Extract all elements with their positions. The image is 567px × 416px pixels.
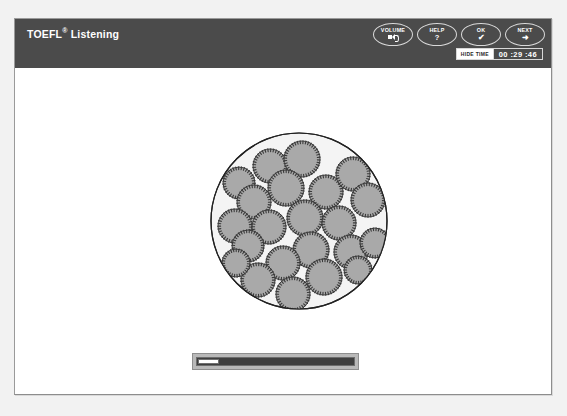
microscope-cells-illustration: [208, 130, 390, 312]
volume-button-label: VOLUME: [381, 28, 405, 33]
page-title-brand: TOEFL: [27, 28, 62, 40]
volume-button[interactable]: VOLUME: [373, 23, 413, 46]
audio-progress-bar[interactable]: [192, 353, 359, 370]
checkmark-icon: ✔: [478, 34, 485, 41]
cell-21: [344, 256, 373, 285]
cell-16: [360, 228, 390, 259]
page-title-section: Listening: [68, 28, 120, 40]
timer-row: HIDE TIME 00 :29 :46: [456, 48, 543, 60]
cell-22: [222, 249, 251, 278]
content-area: [15, 68, 551, 394]
cell-20: [276, 277, 311, 312]
question-mark-icon: ?: [435, 34, 440, 41]
ok-button[interactable]: OK ✔: [461, 23, 501, 46]
page-title: TOEFL® Listening: [27, 27, 119, 40]
progress-handle[interactable]: [198, 359, 219, 364]
header-controls: VOLUME HELP ? OK ✔ NEXT ➜: [373, 23, 545, 46]
speaker-icon: [388, 34, 399, 41]
cell-11: [287, 200, 324, 237]
next-button[interactable]: NEXT ➜: [505, 23, 545, 46]
hide-time-button[interactable]: HIDE TIME: [457, 49, 494, 59]
timer-display: 00 :29 :46: [494, 49, 542, 59]
help-button[interactable]: HELP ?: [417, 23, 457, 46]
progress-track[interactable]: [196, 357, 355, 366]
cell-19: [306, 259, 343, 296]
arrow-right-icon: ➜: [522, 34, 529, 41]
header-bar: TOEFL® Listening VOLUME HELP ? OK ✔ NEXT…: [15, 19, 551, 68]
microscope-svg: [208, 130, 390, 312]
toefl-application-window: TOEFL® Listening VOLUME HELP ? OK ✔ NEXT…: [14, 18, 552, 395]
